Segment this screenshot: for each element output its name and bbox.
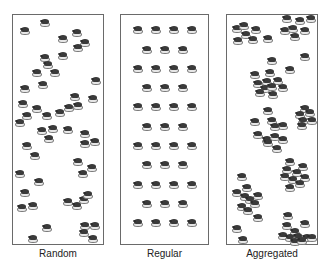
organism-icon bbox=[263, 107, 273, 115]
organism-icon bbox=[305, 109, 315, 117]
organism-icon bbox=[187, 65, 197, 73]
organism-icon bbox=[133, 65, 143, 73]
organism-icon bbox=[44, 135, 54, 143]
organism-icon bbox=[300, 27, 310, 35]
organism-icon bbox=[78, 170, 88, 178]
organism-icon bbox=[297, 237, 307, 245]
organism-icon bbox=[243, 207, 253, 215]
organism-icon bbox=[32, 69, 42, 77]
organism-icon bbox=[297, 122, 307, 130]
organism-icon bbox=[267, 57, 277, 65]
organism-icon bbox=[250, 71, 260, 79]
organism-icon bbox=[151, 65, 161, 73]
organism-icon bbox=[20, 189, 30, 197]
organism-icon bbox=[187, 219, 197, 227]
organism-icon bbox=[151, 26, 161, 34]
organism-icon bbox=[178, 161, 188, 169]
organism-icon bbox=[233, 37, 243, 45]
organism-icon bbox=[142, 46, 152, 54]
organism-icon bbox=[38, 81, 48, 89]
organism-icon bbox=[151, 103, 161, 111]
organism-icon bbox=[295, 180, 305, 188]
organism-icon bbox=[160, 123, 170, 131]
organism-icon bbox=[58, 52, 68, 60]
organism-icon bbox=[50, 69, 60, 77]
organism-icon bbox=[133, 142, 143, 150]
organism-icon bbox=[285, 158, 295, 166]
organism-icon bbox=[169, 142, 179, 150]
organism-icon bbox=[72, 29, 82, 37]
organism-icon bbox=[248, 36, 258, 44]
organism-icon bbox=[187, 26, 197, 34]
organism-icon bbox=[278, 84, 288, 92]
organism-icon bbox=[18, 100, 28, 108]
organism-icon bbox=[151, 142, 161, 150]
organism-icon bbox=[178, 123, 188, 131]
organism-icon bbox=[251, 26, 261, 34]
organism-icon bbox=[250, 118, 260, 126]
organism-icon bbox=[40, 19, 50, 27]
organism-icon bbox=[88, 235, 98, 243]
label-regular: Regular bbox=[120, 248, 209, 259]
organism-icon bbox=[43, 61, 53, 69]
organism-icon bbox=[42, 112, 52, 120]
organism-icon bbox=[73, 158, 83, 166]
organism-icon bbox=[169, 103, 179, 111]
organism-icon bbox=[32, 105, 42, 113]
organism-icon bbox=[151, 219, 161, 227]
organism-icon bbox=[91, 77, 101, 85]
organism-icon bbox=[306, 15, 316, 23]
organism-icon bbox=[42, 224, 52, 232]
organism-icon bbox=[34, 178, 44, 186]
organism-icon bbox=[178, 46, 188, 54]
organism-icon bbox=[187, 142, 197, 150]
organism-icon bbox=[239, 22, 249, 30]
organism-icon bbox=[133, 219, 143, 227]
organism-icon bbox=[142, 123, 152, 131]
organism-icon bbox=[237, 173, 247, 181]
organism-icon bbox=[300, 220, 310, 228]
organism-icon bbox=[160, 161, 170, 169]
organism-icon bbox=[272, 145, 282, 153]
organism-icon bbox=[265, 69, 275, 77]
organism-icon bbox=[263, 35, 273, 43]
organism-icon bbox=[169, 26, 179, 34]
organism-icon bbox=[142, 161, 152, 169]
organism-icon bbox=[22, 142, 32, 150]
label-aggregated: Aggregated bbox=[226, 248, 318, 259]
organism-icon bbox=[285, 184, 295, 192]
organism-icon bbox=[87, 164, 97, 172]
organism-icon bbox=[20, 85, 30, 93]
organism-icon bbox=[267, 83, 277, 91]
organism-icon bbox=[295, 17, 305, 25]
organism-icon bbox=[160, 84, 170, 92]
organism-icon bbox=[285, 66, 295, 74]
organism-icon bbox=[63, 126, 73, 134]
organism-icon bbox=[15, 170, 25, 178]
organism-icon bbox=[232, 225, 242, 233]
organism-icon bbox=[178, 84, 188, 92]
organism-icon bbox=[37, 127, 47, 135]
organism-icon bbox=[133, 103, 143, 111]
label-random: Random bbox=[12, 248, 104, 259]
organism-icon bbox=[187, 103, 197, 111]
organism-icon bbox=[73, 102, 83, 110]
organism-icon bbox=[133, 26, 143, 34]
organism-icon bbox=[253, 214, 263, 222]
organism-icon bbox=[300, 53, 310, 61]
organism-icon bbox=[242, 184, 252, 192]
organism-icon bbox=[142, 200, 152, 208]
organism-icon bbox=[160, 46, 170, 54]
organism-icon bbox=[282, 15, 292, 23]
organism-icon bbox=[278, 136, 288, 144]
organism-icon bbox=[268, 91, 278, 99]
organism-icon bbox=[28, 202, 38, 210]
organism-icon bbox=[178, 200, 188, 208]
organism-icon bbox=[15, 119, 25, 127]
organism-icon bbox=[283, 212, 293, 220]
organism-icon bbox=[133, 181, 143, 189]
organism-icon bbox=[169, 181, 179, 189]
organism-icon bbox=[48, 125, 58, 133]
organism-icon bbox=[90, 222, 100, 230]
organism-icon bbox=[169, 65, 179, 73]
